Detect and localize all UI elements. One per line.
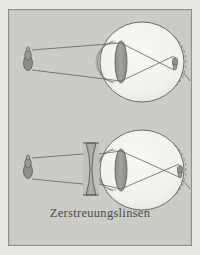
figure-caption: Zerstreuungslinsen (9, 206, 191, 221)
inverted-retinal-image (172, 57, 177, 70)
inverted-retinal-image (177, 165, 182, 178)
panel-corrected (24, 130, 191, 210)
optic-nerve (182, 180, 190, 189)
light-ray (32, 179, 83, 184)
candle-object (24, 47, 33, 71)
crystalline-lens (115, 149, 127, 191)
candle-object (24, 155, 33, 179)
figure-page: Zerstreuungslinsen (0, 0, 200, 255)
crystalline-lens (115, 41, 127, 83)
optic-nerve (182, 72, 190, 81)
eyeball-outline (100, 22, 184, 102)
diverging-lens (83, 143, 99, 195)
incident-ray-bundle (32, 154, 83, 184)
eyeball-outline (100, 130, 184, 210)
light-ray (32, 154, 83, 158)
figure-frame: Zerstreuungslinsen (8, 9, 192, 246)
panel-uncorrected (24, 22, 191, 102)
